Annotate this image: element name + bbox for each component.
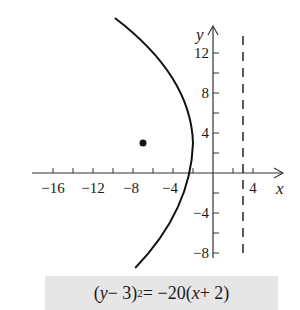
x-tick-label: −8 bbox=[123, 180, 139, 196]
parabola-plot: −16 −12 −8 −4 4 12 8 4 −4 −8 y x bbox=[0, 0, 300, 275]
equation-part1: − 3) bbox=[108, 283, 138, 304]
equation-part3: + 2) bbox=[200, 283, 230, 304]
x-tick-label: −4 bbox=[162, 180, 178, 196]
x-tick-label: −16 bbox=[41, 180, 65, 196]
equation-caption: (y − 3)2 = −20(x + 2) bbox=[45, 276, 278, 310]
y-tick-label: −8 bbox=[193, 245, 209, 261]
x-tick-label: 4 bbox=[249, 180, 257, 196]
equation-var-y: y bbox=[100, 283, 108, 304]
x-axis-label: x bbox=[275, 179, 284, 198]
y-tick-label: 12 bbox=[194, 45, 209, 61]
y-tick-label: 8 bbox=[202, 85, 210, 101]
x-tick-label: −12 bbox=[81, 180, 104, 196]
x-ticks bbox=[53, 168, 253, 173]
focus-point bbox=[140, 140, 147, 147]
y-tick-label: 4 bbox=[202, 125, 210, 141]
y-axis-label: y bbox=[194, 25, 204, 44]
equation-var-x: x bbox=[192, 283, 200, 304]
y-ticks bbox=[213, 53, 219, 253]
parabola-curve bbox=[115, 18, 193, 268]
y-tick-label: −4 bbox=[193, 205, 209, 221]
equation-part2: = −20( bbox=[143, 283, 192, 304]
